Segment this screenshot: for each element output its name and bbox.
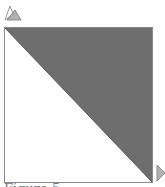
bottom-right-marker-icon (156, 164, 165, 186)
diagram-square (4, 27, 153, 183)
figure-caption: Figure 5 (4, 182, 60, 187)
top-left-marker-icon (4, 4, 22, 26)
diagonal-fill-triangle (5, 28, 152, 182)
